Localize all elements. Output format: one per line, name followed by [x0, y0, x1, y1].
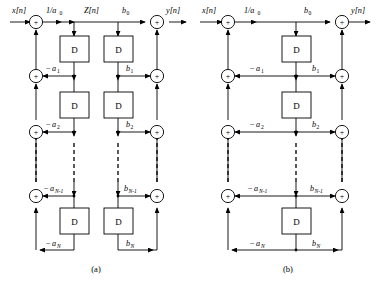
coefficient-label-b0-a: b 0	[122, 6, 130, 16]
delay-block-label: D	[293, 45, 300, 55]
svg-text:2: 2	[261, 124, 264, 130]
delay-block-label: D	[293, 101, 300, 111]
svg-text:2: 2	[317, 124, 320, 130]
delay-block-label: D	[71, 101, 78, 111]
svg-text:b: b	[126, 239, 130, 248]
svg-text:1/a: 1/a	[46, 6, 56, 15]
delay-block-label: D	[71, 217, 78, 227]
svg-text:−: −	[250, 64, 255, 73]
svg-text:a: a	[50, 184, 54, 193]
svg-text:a: a	[52, 239, 56, 248]
svg-text:N-1: N-1	[54, 188, 64, 194]
svg-text:b: b	[122, 6, 126, 15]
coefficient-label-a-n-a: − a N	[46, 239, 61, 249]
svg-text:b: b	[126, 64, 130, 73]
coefficient-label-b-n-b: b N	[312, 239, 321, 249]
signal-flow-diagram: D D D D D D	[0, 0, 383, 287]
panel-a-left-delay-chain: D D D	[60, 22, 89, 234]
svg-text:−: −	[46, 239, 51, 248]
svg-text:b: b	[312, 239, 316, 248]
svg-text:2: 2	[57, 124, 60, 130]
coefficient-label-b0-b: b 0	[304, 6, 312, 16]
intermediate-label-a: Z[n]	[84, 6, 99, 15]
adder-plus-sign: +	[155, 18, 160, 27]
delay-block-label: D	[115, 45, 122, 55]
svg-text:a: a	[52, 120, 56, 129]
adder-plus-sign: +	[226, 72, 231, 81]
adder-plus-sign: +	[155, 192, 160, 201]
input-gain-label-b: 1/a 0	[244, 6, 261, 16]
svg-text:N: N	[316, 243, 321, 249]
panel-a-coefficient-row-2	[43, 131, 150, 134]
svg-text:N-1: N-1	[314, 188, 324, 194]
svg-text:N-1: N-1	[258, 188, 268, 194]
coefficient-label-b-n-minus-1-b: b N-1	[310, 184, 323, 194]
svg-text:1: 1	[57, 68, 60, 74]
figure-root: D D D D D D	[0, 0, 383, 287]
svg-text:−: −	[46, 120, 51, 129]
svg-text:N: N	[260, 243, 265, 249]
coefficient-label-a2-b: − a 2	[250, 120, 264, 130]
svg-text:0: 0	[60, 10, 63, 16]
panel-b-coefficient-row-n-minus-1	[235, 195, 335, 198]
svg-text:−: −	[44, 184, 49, 193]
adder-plus-sign: +	[34, 18, 39, 27]
svg-text:a: a	[256, 239, 260, 248]
svg-text:0: 0	[309, 10, 312, 16]
svg-text:−: −	[248, 184, 253, 193]
adder-plus-sign: +	[155, 128, 160, 137]
svg-text:a: a	[52, 64, 56, 73]
coefficient-label-b1-a: b 1	[126, 64, 134, 74]
adder-plus-sign: +	[340, 72, 345, 81]
panel-b: D D D	[200, 6, 370, 274]
panel-b-center-delay-chain: D D D	[282, 22, 311, 250]
svg-text:b: b	[312, 120, 316, 129]
delay-block-label: D	[71, 45, 78, 55]
svg-text:b: b	[126, 120, 130, 129]
adder-plus-sign: +	[340, 192, 345, 201]
svg-text:−: −	[250, 239, 255, 248]
coefficient-label-a-n-minus-1-b: − a N-1	[248, 184, 268, 194]
coefficient-label-b2-a: b 2	[126, 120, 134, 130]
svg-text:a: a	[256, 64, 260, 73]
adder-plus-sign: +	[34, 72, 39, 81]
adder-plus-sign: +	[226, 192, 231, 201]
panel-a: D D D D D D	[10, 6, 186, 274]
coefficient-label-a1-b: − a 1	[250, 64, 264, 74]
adder-plus-sign: +	[34, 128, 39, 137]
svg-text:b: b	[304, 6, 308, 15]
svg-text:b: b	[310, 184, 314, 193]
panel-b-coefficient-row-n	[232, 249, 342, 252]
svg-text:1: 1	[317, 68, 320, 74]
panel-b-caption: (b)	[283, 264, 293, 274]
output-label-a: y[n]	[165, 6, 180, 15]
svg-text:0: 0	[258, 10, 261, 16]
adder-plus-sign: +	[34, 192, 39, 201]
panel-a-caption: (a)	[91, 264, 101, 274]
coefficient-label-a2-a: − a 2	[46, 120, 60, 130]
input-gain-label-a: 1/a 0	[46, 6, 63, 16]
svg-text:1/a: 1/a	[244, 6, 254, 15]
svg-text:N: N	[56, 243, 61, 249]
svg-text:1: 1	[261, 68, 264, 74]
svg-text:0: 0	[127, 10, 130, 16]
delay-block-label: D	[115, 101, 122, 111]
svg-text:a: a	[256, 120, 260, 129]
coefficient-label-b1-b: b 1	[312, 64, 320, 74]
svg-text:−: −	[250, 120, 255, 129]
panel-b-coefficient-row-2	[235, 131, 335, 134]
adder-plus-sign: +	[226, 18, 231, 27]
svg-text:2: 2	[131, 124, 134, 130]
input-label-b: x[n]	[201, 6, 216, 15]
adder-plus-sign: +	[226, 128, 231, 137]
svg-text:−: −	[46, 64, 51, 73]
adder-plus-sign: +	[155, 72, 160, 81]
coefficient-label-b2-b: b 2	[312, 120, 320, 130]
svg-text:N-1: N-1	[128, 188, 138, 194]
coefficient-label-b-n-minus-1-a: b N-1	[124, 184, 137, 194]
adder-plus-sign: +	[340, 128, 345, 137]
coefficient-label-a-n-minus-1-a: − a N-1	[44, 184, 64, 194]
svg-text:1: 1	[131, 68, 134, 74]
delay-block-label: D	[115, 217, 122, 227]
input-label-a: x[n]	[11, 6, 26, 15]
